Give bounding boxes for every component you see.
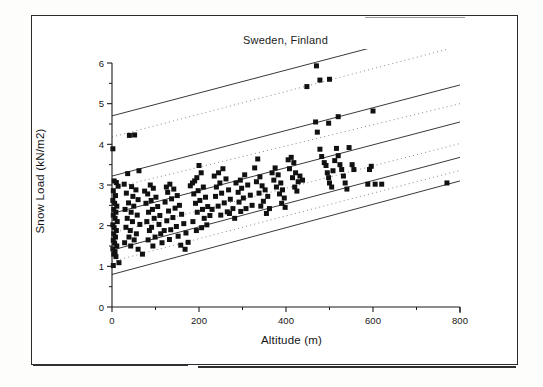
data-point — [129, 210, 134, 215]
data-point — [344, 187, 349, 192]
data-point — [252, 165, 257, 170]
data-point — [115, 219, 120, 224]
data-point — [168, 227, 173, 232]
data-point — [283, 205, 288, 210]
y-tick-label: 5 — [99, 98, 104, 109]
data-point — [337, 162, 342, 167]
data-point — [289, 155, 294, 160]
data-point — [149, 198, 154, 203]
data-point — [167, 182, 172, 187]
data-point — [204, 222, 209, 227]
reference-line-mid-upper-solid — [112, 85, 460, 176]
data-point — [162, 228, 167, 233]
data-point — [128, 228, 133, 233]
data-point — [133, 187, 138, 192]
data-point — [170, 215, 175, 220]
data-point — [334, 146, 339, 151]
data-point — [207, 213, 212, 218]
data-point — [125, 171, 130, 176]
data-point — [131, 204, 136, 209]
data-point — [261, 199, 266, 204]
data-point — [236, 190, 241, 195]
data-point — [183, 230, 188, 235]
data-point — [250, 203, 255, 208]
data-point — [278, 180, 283, 185]
data-point — [132, 132, 137, 137]
data-point — [350, 162, 355, 167]
data-point — [202, 216, 207, 221]
data-point — [126, 200, 131, 205]
data-point — [177, 203, 182, 208]
data-point — [255, 156, 260, 161]
data-point — [216, 204, 221, 209]
data-point — [241, 196, 246, 201]
reference-line-bottom-dotted — [112, 170, 460, 261]
data-point — [169, 196, 174, 201]
data-point — [174, 224, 179, 229]
data-point — [371, 108, 376, 113]
data-point — [296, 179, 301, 184]
data-point — [223, 176, 228, 181]
data-point — [317, 78, 322, 83]
data-point — [166, 209, 171, 214]
reference-lines-group — [112, 24, 460, 274]
data-point — [129, 184, 134, 189]
data-point — [137, 222, 142, 227]
data-point — [181, 221, 186, 226]
data-point — [351, 167, 356, 172]
data-point — [326, 121, 331, 126]
data-point — [167, 237, 172, 242]
data-point — [171, 187, 176, 192]
data-point — [140, 252, 145, 257]
data-point — [155, 204, 160, 209]
data-point — [163, 200, 168, 205]
data-point — [263, 187, 268, 192]
x-tick-label: 400 — [278, 315, 294, 326]
data-point — [243, 206, 248, 211]
data-point — [232, 216, 237, 221]
data-point — [130, 194, 135, 199]
data-point — [290, 175, 295, 180]
data-point — [327, 77, 332, 82]
data-point — [273, 165, 278, 170]
data-point — [197, 163, 202, 168]
data-point — [134, 231, 139, 236]
reference-line-upper-dotted — [112, 46, 460, 137]
y-tick-label: 4 — [99, 139, 104, 150]
data-point — [164, 218, 169, 223]
data-point — [317, 147, 322, 152]
data-point — [123, 207, 128, 212]
data-point — [110, 146, 115, 151]
data-point — [214, 185, 219, 190]
data-point — [153, 195, 158, 200]
data-point — [219, 191, 224, 196]
data-point — [136, 197, 141, 202]
y-tick-label: 1 — [99, 261, 104, 272]
data-point — [199, 170, 204, 175]
data-point — [245, 183, 250, 188]
data-point — [122, 182, 127, 187]
data-point — [165, 190, 170, 195]
data-point — [254, 179, 259, 184]
data-point — [319, 154, 324, 159]
data-point — [194, 228, 199, 233]
data-point — [200, 207, 205, 212]
data-point — [230, 206, 235, 211]
data-point — [136, 247, 141, 252]
data-point — [336, 153, 341, 158]
y-axis-label: Snow Load (kN/m2) — [34, 81, 46, 281]
data-point — [199, 225, 204, 230]
data-point — [156, 222, 161, 227]
data-point — [160, 240, 165, 245]
data-point — [145, 191, 150, 196]
data-point — [242, 172, 247, 177]
data-point — [373, 182, 378, 187]
data-point — [314, 63, 319, 68]
data-point — [271, 178, 276, 183]
data-point — [196, 188, 201, 193]
data-point — [341, 174, 346, 179]
reference-line-bottom-solid — [112, 181, 460, 275]
data-point — [291, 160, 296, 165]
data-point — [144, 219, 149, 224]
data-point — [122, 240, 127, 245]
